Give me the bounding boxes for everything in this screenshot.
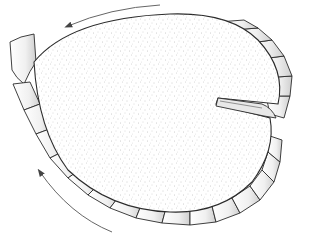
illustration — [0, 0, 319, 239]
leaf-diagram — [0, 0, 319, 239]
